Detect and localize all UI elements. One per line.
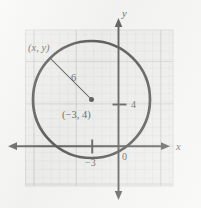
coordinate-plane-svg: (x, y) 6 (−3, 4) 4 −3 0 x y <box>0 0 201 208</box>
center-point-label: (−3, 4) <box>62 109 91 121</box>
y-tick-label-4: 4 <box>131 99 136 110</box>
circle-graph-figure: (x, y) 6 (−3, 4) 4 −3 0 x y <box>0 0 201 208</box>
radius-length-label: 6 <box>71 72 76 83</box>
grid-lines <box>26 30 174 186</box>
point-on-circle-label: (x, y) <box>28 42 50 54</box>
center-point-marker <box>89 97 94 102</box>
x-axis-label: x <box>175 141 181 152</box>
x-tick-label-neg3: −3 <box>85 157 96 168</box>
y-axis-label: y <box>121 8 127 19</box>
origin-label: 0 <box>122 151 127 162</box>
